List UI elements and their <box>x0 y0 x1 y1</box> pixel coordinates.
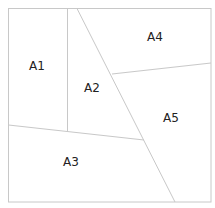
outer-boundary <box>9 9 212 203</box>
region-label-a3: A3 <box>63 155 79 169</box>
region-label-a5: A5 <box>163 111 179 125</box>
region-label-a1: A1 <box>29 59 45 73</box>
region-diagram: A1 A2 A3 A4 A5 <box>0 0 215 208</box>
region-label-a2: A2 <box>84 81 100 95</box>
region-label-a4: A4 <box>147 30 163 44</box>
